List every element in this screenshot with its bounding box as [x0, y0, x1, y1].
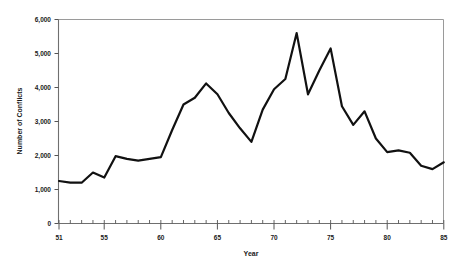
- x-axis-title: Year: [244, 250, 259, 257]
- x-tick-label-55: 55: [101, 234, 109, 241]
- line-chart: 0 1,000 2,000 3,000 4,000 5,000 6,000 51…: [0, 0, 467, 264]
- y-tick-label-4000: 4,000: [35, 84, 52, 92]
- y-tick-label-1000: 1,000: [35, 186, 52, 194]
- x-tick-label-65: 65: [214, 234, 222, 241]
- y-axis-ticks: [55, 20, 59, 224]
- x-tick-label-80: 80: [384, 234, 392, 241]
- x-axis-tick-labels: 51 55 60 65 70 75 80 85: [55, 224, 447, 242]
- x-tick-label-75: 75: [327, 234, 335, 241]
- x-tick-label-70: 70: [270, 234, 278, 241]
- x-tick-label-51: 51: [55, 234, 63, 241]
- y-axis-tick-labels: 0 1,000 2,000 3,000 4,000 5,000 6,000: [35, 16, 52, 227]
- y-tick-label-5000: 5,000: [35, 50, 52, 58]
- y-tick-label-0: 0: [47, 220, 51, 227]
- y-tick-label-2000: 2,000: [35, 152, 52, 160]
- y-tick-label-3000: 3,000: [35, 118, 52, 126]
- chart-figure: 0 1,000 2,000 3,000 4,000 5,000 6,000 51…: [0, 0, 467, 264]
- x-tick-label-85: 85: [440, 234, 448, 241]
- y-axis-title: Number of Conflicts: [16, 87, 23, 154]
- data-series-line: [59, 33, 444, 183]
- plot-frame: [59, 20, 444, 224]
- x-tick-label-60: 60: [157, 234, 165, 241]
- y-tick-label-6000: 6,000: [35, 16, 52, 24]
